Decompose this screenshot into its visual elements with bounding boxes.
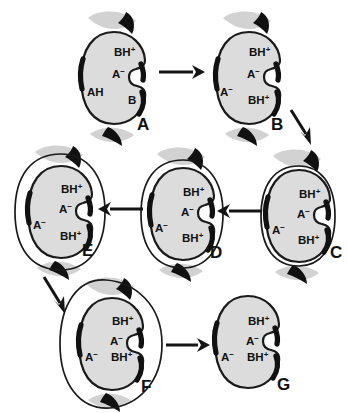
arrow-e-to-f (44, 277, 65, 314)
cell-flap-top (88, 12, 136, 34)
panel-letter-D: D (210, 243, 222, 262)
panel-letter-C: C (330, 243, 342, 262)
panel-G: BH+ A− A− BH+ G (215, 296, 291, 394)
ion-trapping-diagram: BH+ A− AH B A BH+ A− A− BH+ B BH+ A− A− … (0, 0, 348, 413)
panel-letter-E: E (82, 241, 93, 260)
cell-flap-bottom (90, 127, 134, 146)
panel-D: BH+ A− A− BH+ D (141, 148, 223, 282)
figure-root: BH+ A− AH B A BH+ A− A− BH+ B BH+ A− A− … (0, 0, 348, 413)
panel-A: BH+ A− AH B A (81, 12, 150, 146)
panel-letter-A: A (137, 115, 149, 134)
cell-flap-top (157, 148, 205, 170)
panel-F: BH+ A− A− BH+ F (60, 278, 162, 412)
ion-label: B (128, 94, 136, 106)
panel-letter-G: G (277, 375, 290, 394)
arrow-f-to-g (166, 338, 210, 352)
cell-flap-bottom (225, 127, 269, 146)
cell-flap-top (223, 12, 271, 34)
ion-label: AH (87, 86, 104, 98)
cell-flap-bottom (275, 265, 319, 284)
arrow-b-to-c (291, 110, 311, 145)
panel-B: BH+ A− A− BH+ B (216, 12, 284, 146)
cell-flap-bottom (88, 393, 132, 412)
panel-letter-B: B (271, 115, 283, 134)
panel-E: BH+ A− A− BH+ E (15, 146, 105, 280)
panel-letter-F: F (141, 377, 151, 396)
panel-C: BH+ A− A− BH+ C (261, 150, 342, 284)
arrow-a-to-b (159, 65, 205, 79)
